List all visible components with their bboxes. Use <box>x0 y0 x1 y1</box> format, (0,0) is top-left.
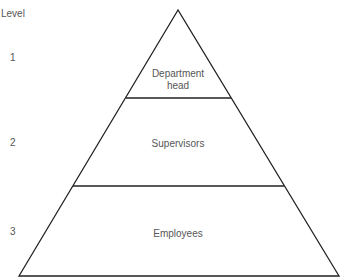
level-number-3: 3 <box>10 226 16 237</box>
tier-label-line2: head <box>128 80 228 92</box>
level-number-2: 2 <box>10 137 16 148</box>
tier-department-head: Department head <box>128 68 228 92</box>
tier-label-line1: Department <box>128 68 228 80</box>
tier-supervisors: Supervisors <box>128 138 228 150</box>
tier-employees: Employees <box>128 228 228 240</box>
level-axis-label: Level <box>1 8 25 19</box>
level-number-1: 1 <box>10 52 16 63</box>
